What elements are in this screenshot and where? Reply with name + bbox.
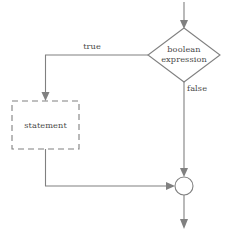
decision-label-line2: expression xyxy=(148,54,220,64)
loop-return-edge xyxy=(46,149,176,190)
false-branch-edge xyxy=(180,82,188,177)
false-branch-label: false xyxy=(187,83,221,93)
loop-return-line xyxy=(46,149,169,186)
loop-return-arrowhead-icon xyxy=(166,182,175,190)
flowchart-graphics xyxy=(0,0,225,233)
exit-arrowhead-icon xyxy=(180,219,188,229)
merge-circle xyxy=(175,177,193,195)
entry-arrow xyxy=(180,2,188,29)
true-branch-arrowhead-icon xyxy=(42,92,50,101)
decision-label-line1: boolean xyxy=(167,44,200,54)
exit-arrow xyxy=(180,195,188,229)
true-branch-line xyxy=(46,55,149,94)
flowchart-canvas: boolean expression statement true false xyxy=(0,0,225,233)
decision-label: boolean expression xyxy=(148,44,220,64)
false-branch-arrowhead-icon xyxy=(180,168,188,177)
statement-label: statement xyxy=(12,120,79,130)
true-branch-label: true xyxy=(72,41,112,51)
true-branch-edge xyxy=(42,55,149,101)
